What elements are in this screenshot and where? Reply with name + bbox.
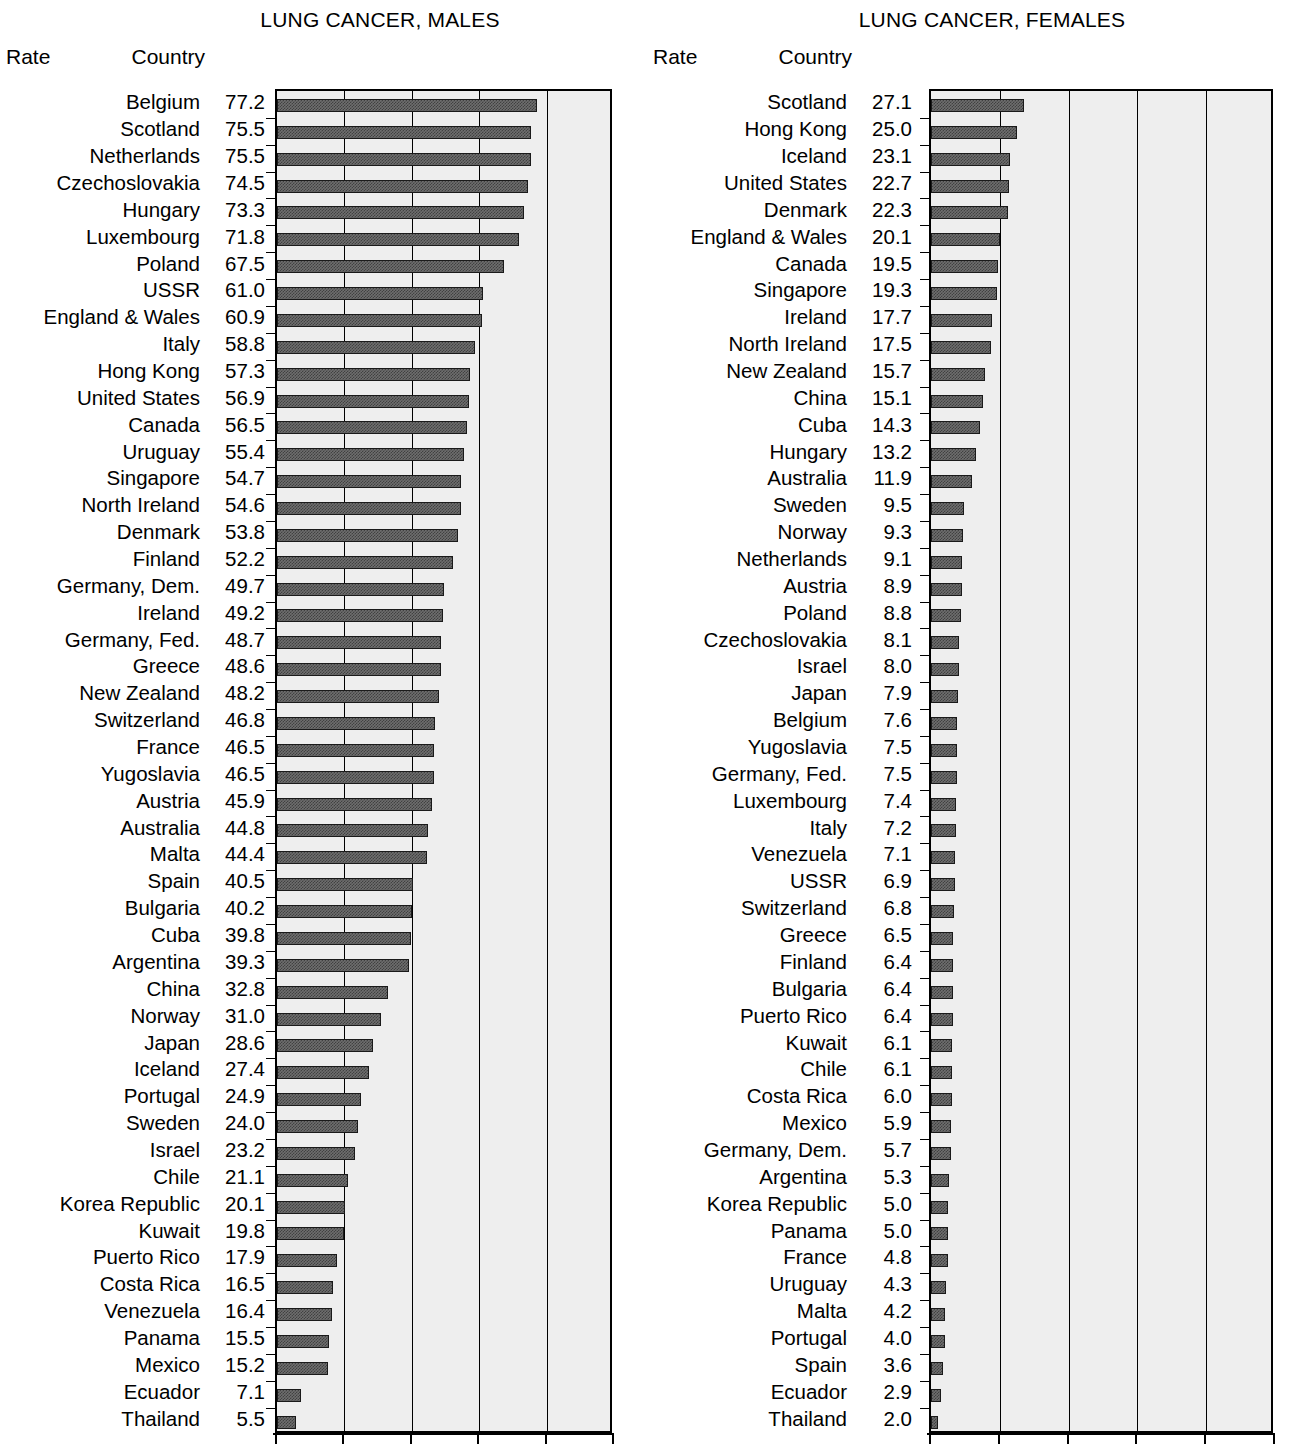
row-tick (266, 602, 277, 603)
rate-value: 13.2 (854, 441, 912, 462)
country-label: Hungary (0, 200, 200, 221)
bar (277, 1416, 296, 1429)
row-tick (920, 548, 931, 549)
bar (277, 798, 432, 811)
rate-value: 24.0 (207, 1113, 265, 1134)
country-label: Argentina (647, 1167, 847, 1188)
row-tick (920, 225, 931, 226)
rate-value: 54.7 (207, 468, 265, 489)
x-axis-tick (1135, 1435, 1137, 1444)
bar (931, 1308, 945, 1321)
bar (277, 180, 528, 193)
bar (931, 1174, 949, 1187)
country-label: Israel (0, 1140, 200, 1161)
country-label: Italy (0, 334, 200, 355)
row-tick (920, 1381, 931, 1382)
row-tick (266, 843, 277, 844)
bar (277, 502, 461, 515)
rate-value: 16.5 (207, 1274, 265, 1295)
bar (931, 1416, 938, 1429)
country-label: Norway (0, 1005, 200, 1026)
country-label: Greece (0, 656, 200, 677)
rate-value: 53.8 (207, 522, 265, 543)
rate-value: 6.4 (854, 979, 912, 1000)
row-tick (266, 252, 277, 253)
row-tick (266, 1031, 277, 1032)
country-label: Luxembourg (0, 226, 200, 247)
rate-value: 23.1 (854, 146, 912, 167)
bar (277, 824, 428, 837)
row-tick (266, 1193, 277, 1194)
bar (931, 1335, 945, 1348)
country-label: Hong Kong (647, 119, 847, 140)
country-label: China (0, 979, 200, 1000)
row-tick (920, 413, 931, 414)
x-axis-tick (275, 1435, 277, 1444)
bar (931, 1120, 951, 1133)
x-axis-tick (612, 1435, 614, 1444)
bar (931, 1066, 952, 1079)
row-tick (266, 1327, 277, 1328)
rate-value: 4.2 (854, 1301, 912, 1322)
bar (931, 1281, 946, 1294)
bar (931, 636, 959, 649)
country-label: Mexico (0, 1355, 200, 1376)
rate-value: 28.6 (207, 1032, 265, 1053)
country-label: Argentina (0, 952, 200, 973)
country-label: Thailand (647, 1408, 847, 1429)
bar (931, 771, 957, 784)
rate-value: 48.2 (207, 683, 265, 704)
rate-value: 27.1 (854, 92, 912, 113)
bar (931, 180, 1009, 193)
bar (931, 717, 957, 730)
row-tick (920, 628, 931, 629)
row-tick (266, 951, 277, 952)
country-label: Uruguay (647, 1274, 847, 1295)
rate-value: 46.5 (207, 764, 265, 785)
row-tick (920, 333, 931, 334)
row-tick (266, 198, 277, 199)
row-tick (266, 1246, 277, 1247)
rate-value: 5.0 (854, 1193, 912, 1214)
row-tick (920, 763, 931, 764)
country-label: New Zealand (647, 361, 847, 382)
bar (931, 690, 958, 703)
rate-value: 48.7 (207, 629, 265, 650)
rate-value: 32.8 (207, 979, 265, 1000)
row-tick (266, 897, 277, 898)
country-label: Spain (647, 1355, 847, 1376)
rate-value: 73.3 (207, 200, 265, 221)
bar (277, 1308, 332, 1321)
gridline (1000, 91, 1001, 1431)
country-label: Panama (0, 1328, 200, 1349)
rate-value: 19.5 (854, 253, 912, 274)
country-label: Australia (647, 468, 847, 489)
bar (277, 556, 453, 569)
country-label: Germany, Fed. (0, 629, 200, 650)
row-tick (920, 1058, 931, 1059)
rate-value: 11.9 (854, 468, 912, 489)
row-tick (266, 1005, 277, 1006)
bar (277, 1254, 337, 1267)
row-tick (266, 628, 277, 629)
row-tick (266, 709, 277, 710)
panel-title-females: LUNG CANCER, FEMALES (757, 8, 1227, 32)
row-tick (266, 118, 277, 119)
country-label: Finland (0, 549, 200, 570)
bar (931, 583, 962, 596)
rate-value: 60.9 (207, 307, 265, 328)
bar (277, 1335, 329, 1348)
row-tick (266, 1408, 277, 1409)
plot-area-males (275, 89, 612, 1433)
bar (931, 959, 953, 972)
row-tick (920, 360, 931, 361)
bar (277, 959, 409, 972)
country-label: Italy (647, 817, 847, 838)
row-tick (266, 763, 277, 764)
country-label: Japan (0, 1032, 200, 1053)
row-tick (266, 575, 277, 576)
country-label: Malta (0, 844, 200, 865)
rate-value: 48.6 (207, 656, 265, 677)
row-tick (920, 306, 931, 307)
country-label: Sweden (647, 495, 847, 516)
